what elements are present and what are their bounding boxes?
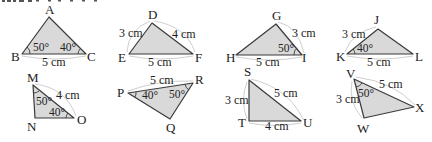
vertex-v-label: V	[346, 66, 356, 81]
vertex-d-label: D	[148, 7, 157, 22]
triangle-stu: S T U 3 cm 5 cm 4 cm	[225, 64, 313, 133]
triangle-pqr: P Q R 5 cm 40° 50°	[117, 72, 204, 135]
angle-o-label: 40°	[49, 106, 66, 118]
vertex-q-label: Q	[166, 120, 176, 135]
angle-v-label: 50°	[358, 87, 375, 99]
side-jk-label: 3 cm	[342, 27, 366, 41]
vertex-r-label: R	[195, 72, 204, 87]
side-bc-label: 5 cm	[42, 55, 66, 69]
vertex-w-label: W	[357, 121, 370, 136]
vertex-k-label: K	[336, 49, 346, 64]
vertex-h-label: H	[226, 50, 235, 65]
triangle-mno: M N O 4 cm 50° 40°	[27, 70, 86, 134]
side-tu-label: 4 cm	[265, 119, 289, 133]
vertex-x-label: X	[415, 100, 425, 115]
side-kl-label: 5 cm	[367, 55, 391, 69]
vertex-t-label: T	[238, 115, 246, 130]
triangle-abc: A B C 50° 40° 5 cm	[11, 2, 96, 69]
vertex-a-label: A	[45, 2, 55, 17]
angle-k-label: 40°	[357, 42, 374, 54]
angle-r-label: 50°	[169, 88, 186, 100]
triangle-vwx: V W X 3 cm 5 cm 50°	[336, 66, 425, 136]
vertex-u-label: U	[303, 115, 313, 130]
vertex-m-label: M	[27, 70, 39, 85]
side-st-label: 3 cm	[225, 93, 249, 107]
angle-p-label: 40°	[142, 89, 159, 101]
vertex-j-label: J	[374, 12, 379, 27]
side-gi-label: 3 cm	[292, 26, 316, 40]
side-pr-label: 5 cm	[150, 73, 174, 87]
vertex-n-label: N	[27, 119, 37, 134]
vertex-s-label: S	[244, 64, 251, 79]
vertex-e-label: E	[118, 50, 126, 65]
vertex-o-label: O	[77, 112, 86, 127]
vertex-b-label: B	[11, 49, 20, 64]
vertex-l-label: L	[415, 49, 423, 64]
side-df-label: 4 cm	[172, 27, 196, 41]
angle-i-label: 50°	[278, 42, 295, 54]
triangle-jkl: J K L 3 cm 40° 5 cm	[336, 12, 423, 69]
triangle-abc-shape	[22, 17, 86, 54]
angle-c-label: 40°	[60, 41, 77, 53]
vertex-p-label: P	[117, 85, 124, 100]
vertex-f-label: F	[195, 50, 202, 65]
vertex-c-label: C	[87, 49, 96, 64]
side-mo-label: 4 cm	[56, 88, 80, 102]
side-ef-label: 5 cm	[148, 55, 172, 69]
side-vx-label: 5 cm	[379, 77, 403, 91]
side-hi-label: 5 cm	[256, 55, 280, 69]
side-vw-label: 3 cm	[336, 92, 360, 106]
side-su-label: 5 cm	[274, 86, 298, 100]
side-de-label: 3 cm	[119, 26, 143, 40]
triangle-ghi: G H I 3 cm 50° 5 cm	[226, 8, 316, 69]
vertex-i-label: I	[302, 50, 306, 65]
angle-b-label: 50°	[33, 41, 50, 53]
triangles-figure: A B C 50° 40° 5 cm D E F 3 cm 4 cm 5 cm …	[0, 0, 432, 142]
triangle-def: D E F 3 cm 4 cm 5 cm	[118, 7, 202, 69]
vertex-g-label: G	[272, 8, 281, 23]
